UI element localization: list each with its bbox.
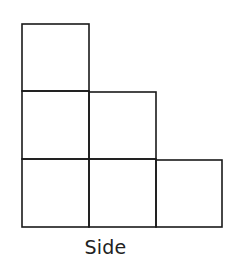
cell-c0-r2 <box>22 159 89 227</box>
cell-c1-r1 <box>89 92 156 159</box>
cell-c2-r2 <box>156 160 222 227</box>
cell-c0-r0 <box>22 24 89 91</box>
cell-c0-r1 <box>22 91 89 159</box>
view-label: Side <box>0 236 211 258</box>
side-view-grid <box>0 0 241 276</box>
cell-c1-r2 <box>89 159 156 227</box>
